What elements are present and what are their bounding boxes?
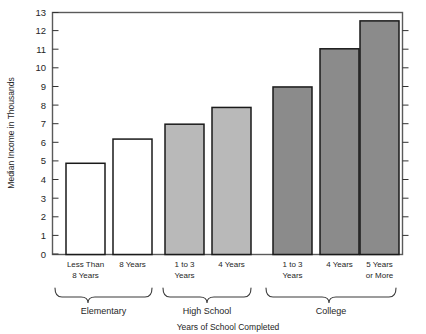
bar-elementary-8-years[interactable]: [113, 139, 152, 254]
y-axis-title: Median Income in Thousands: [6, 77, 16, 188]
y-tick-label: 7: [41, 118, 46, 129]
bar-label-line1: 8 Years: [119, 260, 146, 269]
y-tick-label: 12: [35, 25, 46, 36]
y-tick-label: 3: [41, 193, 46, 204]
group-braces: [55, 288, 396, 303]
bar-college-4-years[interactable]: [320, 49, 359, 255]
bar-label-line2: Years: [282, 271, 302, 280]
brace-high-school: [163, 288, 251, 303]
group-label-college: College: [316, 306, 347, 316]
y-tick-label: 11: [36, 44, 46, 55]
bar-label-line1: 5 Years: [366, 260, 393, 269]
y-tick-label: 10: [35, 62, 46, 73]
y-axis-ticks-right: [403, 31, 409, 236]
category-labels: Less Than 8 Years 8 Years 1 to 3 Years 4…: [67, 260, 394, 280]
y-tick-label: 8: [41, 100, 46, 111]
group-label-high-school: High School: [183, 306, 232, 316]
bar-high-school-1-to-3-years[interactable]: [165, 124, 204, 254]
x-axis-title: Years of School Completed: [177, 322, 280, 332]
bar-label-line1: 4 Years: [326, 260, 353, 269]
bar-label-line1: Less Than: [67, 260, 104, 269]
brace-elementary: [55, 288, 152, 303]
brace-college: [266, 288, 396, 303]
y-tick-label: 6: [41, 137, 46, 148]
bar-label-line1: 1 to 3: [174, 260, 195, 269]
bar-label-line1: 4 Years: [218, 260, 245, 269]
y-tick-label: 2: [41, 211, 46, 222]
y-tick-label: 1: [41, 230, 46, 241]
y-tick-label: 5: [41, 155, 46, 166]
y-tick-label: 0: [41, 249, 46, 260]
bar-label-line1: 1 to 3: [282, 260, 303, 269]
group-label-elementary: Elementary: [81, 306, 127, 316]
group-labels: Elementary High School College: [81, 306, 347, 316]
chart-canvas: 13 12 11 10 9 8 7 6 5 4 3 2 1 0 Median I…: [0, 0, 426, 334]
bar-college-5-years-or-more[interactable]: [360, 21, 399, 255]
y-tick-label: 4: [41, 174, 46, 185]
y-tick-label: 9: [41, 81, 46, 92]
bar-chart: 13 12 11 10 9 8 7 6 5 4 3 2 1 0 Median I…: [0, 0, 426, 334]
bar-high-school-4-years[interactable]: [212, 107, 251, 254]
bar-elementary-less-than-8-years[interactable]: [66, 163, 105, 254]
bar-college-1-to-3-years[interactable]: [273, 87, 312, 255]
bar-label-line2: Years: [174, 271, 194, 280]
bar-label-line2: or More: [366, 271, 394, 280]
y-tick-label: 13: [35, 7, 46, 18]
y-axis-tick-labels: 13 12 11 10 9 8 7 6 5 4 3 2 1 0: [35, 7, 46, 260]
bar-label-line2: 8 Years: [72, 271, 99, 280]
